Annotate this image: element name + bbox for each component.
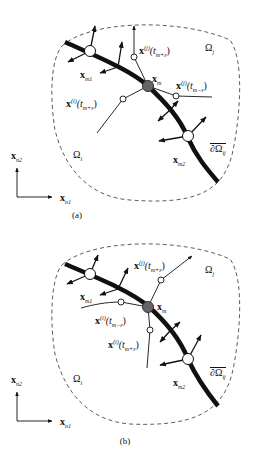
- label-omega-i: Ωi: [73, 374, 82, 388]
- node-x-m1: [85, 269, 96, 280]
- label-axis-y: xn2: [11, 375, 22, 389]
- label-x-m2: xm2: [173, 155, 185, 169]
- label-x-m2: xm2: [173, 378, 185, 392]
- label-omega-j: Ωj: [205, 265, 214, 279]
- label-boundary: ∂Ωij: [210, 143, 226, 158]
- label-trajectory-j-plus: x(j)(tm+ε): [139, 43, 170, 60]
- label-x-m: xm: [152, 74, 161, 88]
- diagram-a-graphics: [0, 0, 255, 230]
- label-x-m1: xm1: [80, 70, 92, 84]
- label-trajectory-i-plus: x(i)(tm+ε): [66, 96, 97, 113]
- panel-b: xm1 xm xm2 x(j)(tm+ε) x(i)(tm−ε) x(i)(tm…: [0, 229, 255, 459]
- label-x-m: xm: [157, 302, 166, 316]
- panel-a: xm1 xm xm2 x(j)(tm+ε) x(j)(tm−ε) x(i)(tm…: [0, 0, 255, 230]
- label-x-m1: xm1: [80, 292, 92, 306]
- label-trajectory-j-plus: x(j)(tm+ε): [134, 258, 165, 275]
- label-omega-j: Ωj: [205, 43, 214, 57]
- node-x-m1: [85, 46, 96, 57]
- caption-b: (b): [110, 436, 140, 446]
- node-x-m2: [183, 354, 194, 365]
- label-trajectory-i-plus: x(i)(tm+ε): [108, 337, 139, 354]
- label-boundary: ∂Ωij: [210, 367, 226, 382]
- interface-curve: [65, 264, 218, 406]
- label-trajectory-i-minus: x(i)(tm−ε): [95, 313, 126, 330]
- label-axis-y: xn2: [11, 151, 22, 165]
- label-axis-x: xn1: [60, 193, 71, 207]
- label-omega-i: Ωi: [73, 150, 82, 164]
- node-x-m2: [183, 131, 194, 142]
- caption-a: (a): [62, 210, 92, 220]
- node-x-m: [143, 302, 154, 313]
- label-axis-x: xn1: [60, 417, 71, 431]
- label-trajectory-j-minus: x(j)(tm−ε): [176, 78, 207, 95]
